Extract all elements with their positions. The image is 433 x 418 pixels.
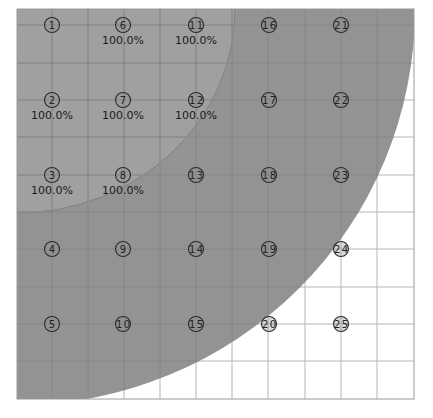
marker-21[interactable]: 21 [334,18,349,33]
marker-number: 8 [120,170,126,181]
marker-1[interactable]: 1 [45,18,60,33]
marker-22[interactable]: 22 [334,93,349,108]
marker-number: 1 [49,20,55,31]
coverage-percent-label: 100.0% [102,109,144,122]
marker-19[interactable]: 19 [262,242,277,257]
marker-number: 11 [189,20,203,31]
marker-number: 24 [334,244,348,255]
marker-14[interactable]: 14 [189,242,204,257]
coverage-percent-label: 100.0% [175,109,217,122]
marker-number: 3 [49,170,55,181]
marker-5[interactable]: 5 [45,317,60,332]
coverage-percent-label: 100.0% [175,34,217,47]
marker-number: 16 [262,20,276,31]
marker-number: 12 [189,95,203,106]
coverage-percent-label: 100.0% [31,109,73,122]
coverage-percent-label: 100.0% [102,34,144,47]
marker-20[interactable]: 20 [262,317,277,332]
marker-number: 20 [262,319,276,330]
marker-number: 14 [189,244,203,255]
marker-17[interactable]: 17 [262,93,277,108]
marker-number: 10 [116,319,130,330]
marker-number: 6 [120,20,126,31]
marker-4[interactable]: 4 [45,242,60,257]
marker-number: 17 [262,95,276,106]
marker-number: 22 [334,95,348,106]
marker-13[interactable]: 13 [189,168,204,183]
marker-number: 15 [189,319,203,330]
marker-18[interactable]: 18 [262,168,277,183]
marker-9[interactable]: 9 [116,242,131,257]
coverage-percent-label: 100.0% [102,184,144,197]
marker-number: 13 [189,170,203,181]
marker-number: 19 [262,244,276,255]
marker-15[interactable]: 15 [189,317,204,332]
marker-number: 7 [120,95,126,106]
marker-16[interactable]: 16 [262,18,277,33]
marker-number: 18 [262,170,276,181]
coverage-percent-label: 100.0% [31,184,73,197]
marker-23[interactable]: 23 [334,168,349,183]
marker-number: 5 [49,319,55,330]
coverage-diagram: 12100.0%3100.0%456100.0%7100.0%8100.0%91… [0,0,433,418]
marker-number: 25 [334,319,348,330]
marker-24[interactable]: 24 [334,242,349,257]
marker-25[interactable]: 25 [334,317,349,332]
marker-number: 23 [334,170,348,181]
marker-number: 21 [334,20,348,31]
marker-number: 9 [120,244,126,255]
marker-number: 4 [49,244,55,255]
marker-number: 2 [49,95,55,106]
marker-10[interactable]: 10 [116,317,131,332]
